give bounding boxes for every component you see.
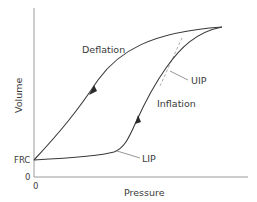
y-origin-tick-label: 0 <box>25 172 30 182</box>
inflation-label: Inflation <box>157 98 196 109</box>
lip-label: LIP <box>142 153 156 164</box>
inflation-curve <box>34 27 222 160</box>
y-axis-label: Volume <box>13 78 24 113</box>
uip-label: UIP <box>191 75 207 86</box>
pressure-volume-diagram: Deflation Inflation UIP LIP FRC 0 0 Pres… <box>0 0 257 202</box>
lip-pointer-line <box>117 151 140 158</box>
frc-tick-label: FRC <box>14 155 30 165</box>
deflation-label: Deflation <box>82 44 125 55</box>
x-origin-tick-label: 0 <box>33 181 38 191</box>
diagram-canvas: Deflation Inflation UIP LIP FRC 0 0 Pres… <box>0 0 257 202</box>
inflation-arrow-icon <box>135 115 141 124</box>
x-axis-label: Pressure <box>124 187 165 198</box>
uip-pointer-line <box>170 71 188 80</box>
deflation-curve <box>34 27 222 160</box>
